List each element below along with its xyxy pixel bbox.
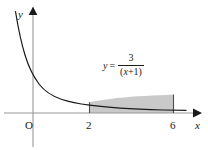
equation-denominator: (x+1) [118,66,144,78]
equation-numerator: 3 [125,53,136,65]
y-axis-label: y [18,9,23,20]
x-axis-label: x [195,120,200,131]
math-figure: O 2 6 y x y = 3 (x+1) [0,0,208,150]
equation-lhs: y [103,60,107,71]
equation-fraction: 3 (x+1) [118,53,144,77]
denominator-close-paren: ) [139,66,142,77]
equation-equals-sign: = [109,60,115,71]
curve-equation-label: y = 3 (x+1) [103,53,144,77]
x-tick-label-2: 2 [86,120,92,131]
x-tick-label-6: 6 [170,120,176,131]
y-axis-arrow-icon [29,7,38,16]
origin-label: O [25,120,33,131]
x-axis-arrow-icon [193,109,202,118]
